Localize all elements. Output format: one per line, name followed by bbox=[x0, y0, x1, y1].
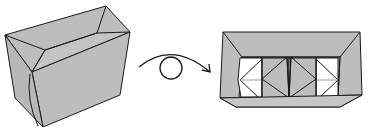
box-top-view-figure bbox=[220, 32, 362, 107]
box-3d-figure bbox=[5, 6, 130, 127]
turn-over-icon bbox=[139, 55, 210, 79]
origami-diagram bbox=[0, 0, 370, 127]
